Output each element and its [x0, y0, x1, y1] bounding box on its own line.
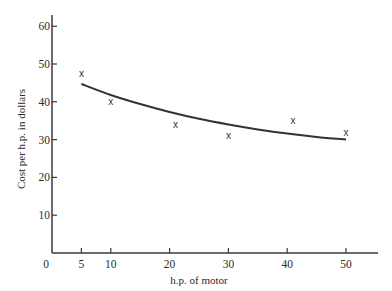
- x-axis-label: h.p. of motor: [170, 274, 228, 286]
- data-point-marker: x: [344, 127, 349, 138]
- y-tick-label: 20: [39, 171, 51, 183]
- axes: [52, 15, 378, 253]
- x-tick-label: 30: [223, 258, 235, 270]
- data-point-marker: x: [291, 115, 296, 126]
- x-ticks: 051020304050: [43, 248, 352, 270]
- y-tick-label: 30: [39, 134, 51, 146]
- y-ticks: 102030405060: [39, 20, 58, 221]
- y-tick-label: 50: [39, 58, 51, 70]
- y-axis-label: Cost per h.p. in dollars: [15, 89, 27, 189]
- y-tick-label: 60: [39, 20, 51, 32]
- y-tick-label: 40: [39, 96, 51, 108]
- fitted-curve: [81, 84, 346, 140]
- x-tick-label: 5: [79, 258, 85, 270]
- x-tick-label: 40: [281, 258, 293, 270]
- data-point-marker: x: [79, 68, 84, 79]
- data-markers: xxxxxx: [79, 68, 349, 141]
- x-tick-label: 20: [164, 258, 176, 270]
- chart: 051020304050 102030405060 xxxxxx h.p. of…: [0, 0, 392, 291]
- x-tick-label: 10: [105, 258, 117, 270]
- y-tick-label: 10: [39, 209, 51, 221]
- data-point-marker: x: [173, 119, 178, 130]
- x-tick-label: 0: [43, 258, 49, 270]
- x-tick-label: 50: [340, 258, 352, 270]
- data-point-marker: x: [108, 96, 113, 107]
- data-point-marker: x: [226, 130, 231, 141]
